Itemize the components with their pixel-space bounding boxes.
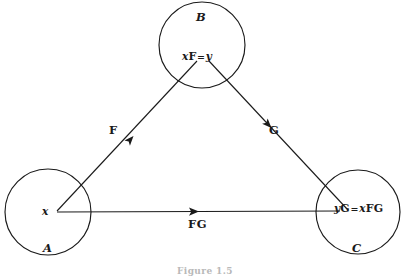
map-g-symbol: G [340,202,350,215]
element-y-symbol: y [206,50,212,62]
set-label-b: B [196,12,206,24]
set-label-c: C [352,243,361,255]
map-label-f: F [109,125,118,137]
arrow-f [57,61,197,211]
map-label-g: G [269,125,279,137]
map-f-symbol: F [188,50,196,63]
set-label-a: A [43,243,52,255]
figure-container: x xF=y yG=xFG A B C F G FG Figure 1.5 [0,0,410,278]
element-x-symbol: x [42,205,48,217]
element-label-x: x [42,206,48,217]
figure-caption: Figure 1.5 [0,266,410,278]
equals-sign: = [197,51,206,62]
map-label-fg: FG [188,219,207,231]
map-fg-symbol: FG [366,202,384,215]
arrow-fg [57,207,340,215]
diagram-canvas [0,0,410,278]
equals-sign: = [350,203,359,214]
element-label-yg-equals-xfg: yG=xFG [334,203,383,214]
element-label-xf-equals-y: xF=y [182,51,212,62]
